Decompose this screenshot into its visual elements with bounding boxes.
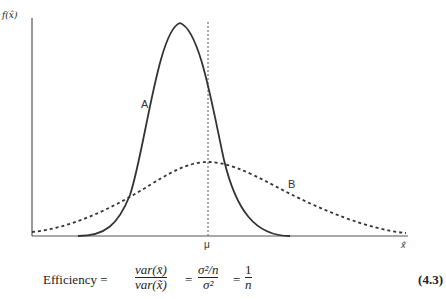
frac3-denominator: n — [245, 278, 252, 292]
y-axis-label: f(x̂) — [2, 10, 17, 20]
equation-lhs: Efficiency = — [43, 272, 107, 288]
frac1-numerator: var(x̄) — [135, 263, 167, 277]
curve-a-label: A — [141, 98, 149, 110]
fraction-variance-ratio: var(x̄) var(x̃) — [135, 263, 167, 292]
frac2-denominator: σ² — [203, 278, 213, 292]
x-axis-label: x̂ — [400, 240, 406, 250]
chart-canvas: A B μ x̂ — [0, 0, 446, 250]
fraction-sigma: σ²/n σ² — [198, 263, 218, 292]
equals-sign: = — [233, 272, 240, 288]
curve-b-label: B — [288, 178, 295, 190]
curve-b — [32, 162, 406, 233]
curve-a — [78, 23, 290, 236]
frac2-numerator: σ²/n — [198, 263, 218, 277]
figure: A B μ x̂ f(x̂) — [0, 0, 446, 250]
frac3-numerator: 1 — [245, 263, 252, 277]
equals-sign: = — [185, 272, 192, 288]
efficiency-equation: Efficiency = var(x̄) var(x̃) = σ²/n σ² =… — [43, 262, 443, 299]
mu-label: μ — [204, 239, 210, 250]
frac1-denominator: var(x̃) — [135, 278, 167, 292]
equation-number: (4.3) — [418, 272, 443, 288]
fraction-one-over-n: 1 n — [245, 263, 252, 292]
